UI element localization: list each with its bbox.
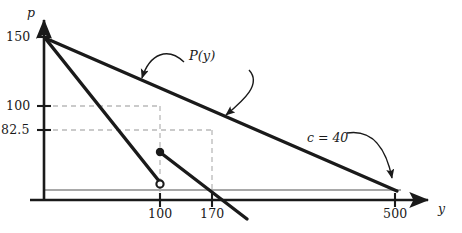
arrow-py-right: [226, 70, 253, 115]
guide-lines: [44, 106, 212, 200]
x-tick-label-100: 100: [148, 206, 172, 221]
y-tick-label-100: 100: [6, 98, 30, 113]
x-axis-label: y: [438, 201, 445, 216]
diagram-svg: [0, 0, 462, 233]
annotation-arrows: [142, 54, 392, 178]
open-circle-marker: [156, 180, 163, 187]
y-tick-label-82-5: 82.5: [1, 122, 30, 137]
tick-marks: [37, 37, 395, 207]
figure-canvas: p y 150 100 82.5 100 170 500 P(y) c = 40: [0, 0, 462, 233]
y-tick-label-150: 150: [6, 29, 30, 44]
cost-line-label: c = 40: [307, 130, 348, 145]
curve-mr-upper-branch: [45, 38, 159, 181]
filled-dot-marker: [156, 148, 164, 156]
x-tick-label-500: 500: [383, 206, 407, 221]
y-axis-label: p: [27, 5, 35, 20]
x-tick-label-170: 170: [200, 206, 224, 221]
demand-curve-label: P(y): [189, 48, 215, 63]
axes: [30, 20, 428, 200]
curve-demand-py: [45, 38, 397, 191]
arrow-py-left: [142, 54, 184, 78]
